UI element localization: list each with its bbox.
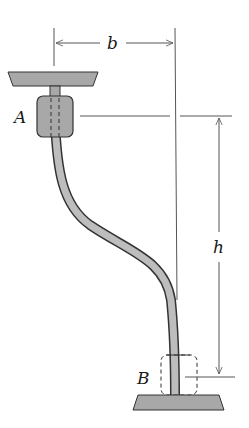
label-a: A (12, 107, 26, 127)
label-h: h (213, 237, 224, 257)
dimension-b: b (54, 28, 177, 300)
extension-line-right (175, 28, 177, 300)
dimension-h: h (213, 118, 224, 374)
hanger-stem (50, 86, 60, 97)
label-b: b (107, 33, 118, 53)
ceiling-support (8, 72, 98, 86)
label-b-point: B (136, 368, 150, 388)
diagram-canvas: b A h B (0, 0, 249, 428)
clamp-block-a (37, 96, 73, 137)
floor-support (133, 395, 224, 410)
flexible-rod (55, 120, 175, 396)
